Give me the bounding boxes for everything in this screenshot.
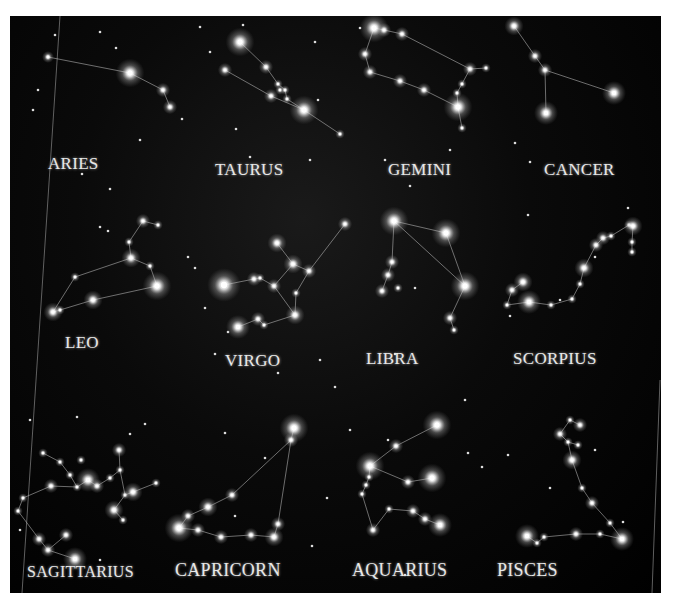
background-star [99,559,102,562]
star-icon [582,266,586,270]
star-icon [157,224,159,226]
star-icon [91,298,95,302]
star-field [10,16,661,593]
background-star [549,487,552,490]
star-icon [371,25,376,30]
background-star [99,31,102,34]
star-icon [162,89,165,92]
background-star [467,452,470,455]
star-icon [577,444,579,446]
star-icon [407,481,410,484]
star-icon [236,325,241,330]
label-leo: LEO [65,333,99,353]
star-icon [571,298,573,300]
background-star [76,416,79,419]
star-icon [149,265,151,267]
star-icon [275,241,279,245]
star-icon [567,441,569,443]
star-icon [127,70,132,75]
background-star [509,315,512,318]
star-icon [550,304,552,306]
background-star [129,433,132,436]
background-star [209,51,212,54]
star-icon [339,133,341,135]
star-icon [131,490,135,494]
star-icon [461,83,463,85]
background-star [507,454,510,457]
star-icon [51,310,55,314]
star-icon [485,67,487,69]
background-star [319,359,322,362]
star-icon [579,424,582,427]
star-icon [301,107,306,112]
star-icon [224,69,227,72]
star-icon [536,542,538,544]
background-star [19,529,22,532]
star-icon [443,230,448,235]
background-star [234,515,237,518]
star-icon [220,536,223,539]
guide-line [652,380,660,593]
background-star [387,439,390,442]
star-icon [631,241,633,243]
label-aquarius: AQUARIUS [352,560,447,581]
star-icon [47,549,50,552]
star-icon [344,223,347,226]
star-icon [388,508,390,510]
background-star [242,24,245,27]
star-icon [579,283,581,285]
background-star [594,449,597,452]
star-icon [620,537,625,542]
star-icon [308,270,311,273]
star-icon [42,452,44,454]
star-icon [534,55,537,58]
star-icon [369,71,372,74]
star-icon [50,485,53,488]
star-icon [277,523,280,526]
star-icon [599,533,601,535]
background-star [194,267,197,270]
star-icon [525,534,530,539]
star-icon [86,478,91,483]
star-icon [575,533,578,536]
background-star [449,149,452,152]
star-icon [259,277,261,279]
label-libra: LIBRA [366,349,419,369]
star-icon [272,535,276,539]
star-icon [365,484,367,486]
star-icon [47,56,49,58]
star-icon [631,224,635,228]
star-icon [263,324,265,326]
star-icon [591,502,594,505]
star-icon [74,276,76,278]
label-pisces: PISCES [497,560,558,581]
star-icon [372,529,375,532]
star-icon [59,309,61,311]
star-icon [293,313,297,317]
background-star [115,47,118,50]
label-taurus: TAURUS [215,160,283,180]
star-icon [543,536,545,538]
label-capricorn: CAPRICORN [175,560,281,581]
background-star [99,226,102,229]
star-icon [424,518,427,521]
background-star [334,386,337,389]
star-icon [17,510,19,512]
background-star [326,497,329,500]
star-icon [38,538,41,541]
background-star [204,307,207,310]
background-star [317,99,320,102]
star-icon [119,469,121,471]
background-star [527,214,530,217]
star-icon [80,459,82,461]
star-icon [290,439,293,442]
background-star [559,299,562,302]
background-star [235,128,238,131]
star-icon [383,29,386,32]
star-icon [395,445,398,448]
star-icon [506,304,508,306]
star-icon [610,235,612,237]
label-gemini: GEMINI [388,160,451,180]
star-icon [609,522,611,524]
star-icon [128,241,130,243]
